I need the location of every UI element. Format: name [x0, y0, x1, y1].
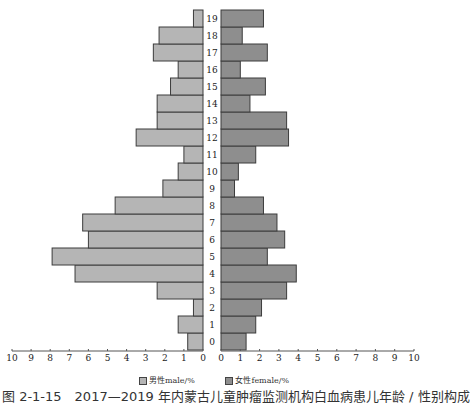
male-bar	[75, 265, 203, 282]
female-bar	[221, 27, 242, 44]
male-bar	[157, 95, 203, 112]
female-bar	[221, 197, 263, 214]
male-bar	[193, 10, 203, 27]
x-tick-label: 8	[373, 353, 379, 363]
age-label: 1	[209, 320, 215, 330]
male-bar	[88, 231, 203, 248]
age-label: 7	[209, 218, 215, 228]
female-bar	[221, 112, 287, 129]
age-label: 11	[206, 150, 217, 160]
age-label: 0	[209, 337, 215, 347]
male-bar	[115, 197, 203, 214]
age-label: 4	[209, 269, 215, 279]
female-bar	[221, 299, 262, 316]
female-bar	[221, 282, 287, 299]
male-bar	[178, 163, 203, 180]
female-bar	[221, 231, 285, 248]
male-bar	[188, 333, 203, 350]
x-tick-label: 1	[237, 353, 243, 363]
female-bar	[221, 146, 256, 163]
male-bar	[178, 316, 203, 333]
bars: 012345678910111213141516171819	[52, 10, 296, 350]
female-bar	[221, 61, 240, 78]
x-tick-label: 4	[124, 353, 130, 363]
age-label: 5	[209, 252, 215, 262]
female-bar	[221, 44, 267, 61]
x-tick-label: 3	[276, 353, 282, 363]
female-bar	[221, 95, 250, 112]
x-tick-label: 8	[47, 353, 53, 363]
x-tick-label: 0	[218, 353, 224, 363]
female-bar	[221, 129, 289, 146]
figure-caption: 图 2-1-15 2017—2019 年内蒙古儿童肿瘤监测机构白血病患儿年龄 /…	[0, 386, 430, 405]
x-tick-label: 0	[200, 353, 206, 363]
x-tick-label: 7	[66, 353, 72, 363]
legend-label-male: 男性male/%	[149, 376, 195, 385]
age-label: 17	[206, 48, 218, 58]
legend-item-female: 女性female/%	[225, 374, 289, 385]
male-swatch-icon	[139, 377, 147, 385]
x-tick-label: 10	[6, 353, 18, 363]
male-bar	[178, 61, 203, 78]
age-label: 12	[206, 133, 217, 143]
male-bar	[83, 214, 203, 231]
x-tick-label: 4	[295, 353, 301, 363]
x-tick-label: 2	[162, 353, 168, 363]
age-label: 9	[209, 184, 215, 194]
age-label: 8	[209, 201, 215, 211]
age-label: 6	[209, 235, 215, 245]
male-bar	[153, 44, 203, 61]
x-tick-label: 6	[334, 353, 340, 363]
male-bar	[52, 248, 203, 265]
male-bar	[184, 146, 203, 163]
female-bar	[221, 78, 265, 95]
legend: 男性male/% 女性female/%	[0, 374, 428, 385]
x-tick-label: 6	[86, 353, 92, 363]
female-bar	[221, 265, 296, 282]
x-tick-label: 9	[28, 353, 34, 363]
x-tick-label: 1	[181, 353, 187, 363]
female-bar	[221, 180, 235, 197]
female-swatch-icon	[225, 377, 233, 385]
x-tick-label: 10	[408, 353, 420, 363]
x-tick-label: 5	[315, 353, 321, 363]
female-bar	[221, 214, 277, 231]
age-label: 13	[206, 116, 218, 126]
x-tick-label: 5	[105, 353, 111, 363]
male-bar	[171, 78, 203, 95]
age-label: 2	[209, 303, 215, 313]
male-bar	[193, 299, 203, 316]
age-label: 18	[206, 31, 218, 41]
age-label: 14	[206, 99, 218, 109]
age-label: 3	[209, 286, 215, 296]
female-bar	[221, 333, 246, 350]
age-label: 16	[206, 65, 218, 75]
female-bar	[221, 316, 256, 333]
male-bar	[157, 282, 203, 299]
x-tick-label: 3	[143, 353, 149, 363]
age-label: 19	[206, 14, 218, 24]
female-bar	[221, 163, 238, 180]
x-tick-label: 9	[392, 353, 398, 363]
male-bar	[159, 27, 203, 44]
female-bar	[221, 10, 263, 27]
legend-item-male: 男性male/%	[139, 374, 195, 385]
legend-label-female: 女性female/%	[235, 376, 289, 385]
age-label: 10	[206, 167, 218, 177]
male-bar	[163, 180, 203, 197]
male-bar	[157, 112, 203, 129]
x-tick-label: 2	[257, 353, 263, 363]
x-tick-label: 7	[353, 353, 359, 363]
age-label: 15	[206, 82, 218, 92]
female-bar	[221, 248, 267, 265]
male-bar	[136, 129, 203, 146]
